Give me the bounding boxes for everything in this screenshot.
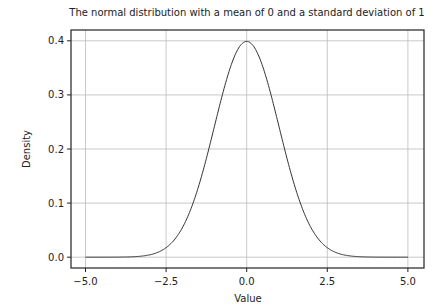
grid: [71, 30, 424, 268]
x-axis-label: Value: [234, 293, 261, 304]
x-axis: −5.0−2.50.02.55.0: [73, 268, 415, 287]
x-tick-label: 5.0: [400, 276, 416, 287]
chart-title: The normal distribution with a mean of 0…: [68, 7, 424, 18]
y-tick-label: 0.1: [48, 198, 64, 209]
x-tick-label: 2.5: [319, 276, 335, 287]
y-axis-label: Density: [21, 130, 32, 168]
y-tick-label: 0.3: [48, 89, 64, 100]
y-axis: 0.00.10.20.30.4: [48, 35, 71, 262]
x-tick-label: −2.5: [154, 276, 178, 287]
y-tick-label: 0.4: [48, 35, 64, 46]
y-tick-label: 0.0: [48, 252, 64, 263]
y-tick-label: 0.2: [48, 144, 64, 155]
chart: The normal distribution with a mean of 0…: [0, 0, 445, 308]
x-tick-label: 0.0: [239, 276, 255, 287]
x-tick-label: −5.0: [73, 276, 97, 287]
